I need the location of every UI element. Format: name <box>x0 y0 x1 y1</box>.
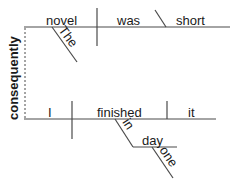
clause1-predicate-adjective-divider <box>155 10 166 27</box>
word-day: day <box>142 133 163 148</box>
word-it: it <box>188 105 195 120</box>
word-novel: novel <box>46 13 77 28</box>
word-consequently: consequently <box>6 35 21 120</box>
word-was: was <box>116 13 141 28</box>
word-finished: finished <box>97 105 142 120</box>
sentence-diagram: novel was short The consequently I finis… <box>0 0 232 191</box>
word-short: short <box>176 13 205 28</box>
word-i: I <box>48 105 52 120</box>
